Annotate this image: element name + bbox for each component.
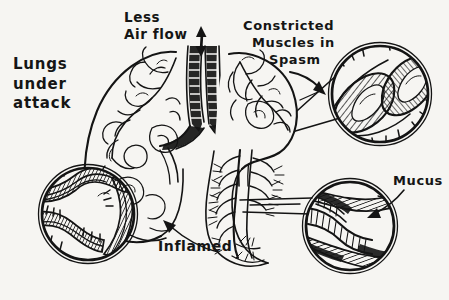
constricted-muscles-magnifier: [320, 39, 435, 150]
label-constricted-line1: Constricted: [243, 18, 334, 33]
mucus-plug-magnifier: [299, 179, 397, 274]
lungs-under-attack-illustration: [0, 0, 449, 300]
spasm-arrow-icon: [290, 72, 326, 95]
label-constricted-line2: Muscles in: [243, 35, 335, 52]
label-less-air-flow: Less Air flow: [124, 9, 187, 43]
label-constricted-muscles-in-spasm: ConstrictedMuscles inSpasm: [243, 18, 335, 69]
illustration-canvas: Lungs under attack Less Air flow Constri…: [0, 0, 449, 300]
label-lungs-under-attack: Lungs under attack: [13, 55, 71, 114]
label-constricted-line3: Spasm: [243, 52, 335, 69]
label-inflamed: Inflamed: [158, 238, 232, 255]
label-mucus: Mucus: [393, 173, 443, 188]
